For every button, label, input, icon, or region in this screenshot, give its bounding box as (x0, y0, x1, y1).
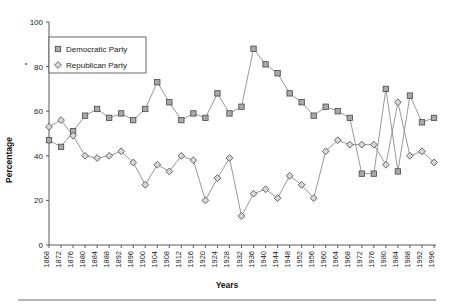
x-tick-label: 1944 (271, 251, 280, 268)
data-point-marker (46, 137, 51, 142)
data-point-marker (299, 100, 304, 105)
x-tick-label: 1988 (403, 251, 412, 268)
x-tick-label: 1916 (186, 251, 195, 268)
x-tick-label: 1892 (114, 251, 123, 268)
data-point-marker (155, 80, 160, 85)
data-point-marker (106, 115, 111, 120)
x-tick-label: 1984 (391, 251, 400, 268)
data-point-marker (395, 99, 402, 106)
data-point-marker (370, 141, 377, 148)
data-point-marker (311, 113, 316, 118)
data-point-marker (275, 71, 280, 76)
data-point-marker (179, 117, 184, 122)
data-point-marker (335, 109, 340, 114)
data-point-marker (347, 115, 352, 120)
data-point-marker (274, 195, 281, 202)
x-tick-label: 1960 (319, 251, 328, 268)
data-point-marker (227, 111, 232, 116)
x-tick-label: 1904 (150, 251, 159, 268)
x-axis-title: Years (216, 280, 239, 290)
data-point-marker (431, 115, 436, 120)
data-point-marker (202, 197, 209, 204)
data-point-marker (371, 171, 376, 176)
data-point-marker (239, 104, 244, 109)
data-point-marker (419, 120, 424, 125)
x-tick-label: 1868 (42, 251, 51, 268)
legend-marker-democratic (55, 46, 60, 51)
data-point-marker (382, 161, 389, 168)
series-polylines (49, 49, 434, 216)
x-tick-label: 1872 (54, 251, 63, 268)
data-point-marker (203, 115, 208, 120)
x-tick-label: 1928 (222, 251, 231, 268)
data-point-marker (407, 152, 414, 159)
data-point-marker (118, 111, 123, 116)
data-point-marker (323, 104, 328, 109)
y-tick-label: 0 (39, 241, 44, 250)
y-tick-label: 20 (34, 196, 43, 205)
chart-legend: Democratic PartyRepublican Party (49, 37, 146, 73)
x-tick-label: 1876 (66, 251, 75, 268)
y-tick-label: 60 (34, 107, 43, 116)
data-point-marker (131, 117, 136, 122)
x-tick-label: 1992 (415, 251, 424, 268)
x-tick-label: 1912 (174, 251, 183, 268)
x-tick-label: 1976 (367, 251, 376, 268)
x-tick-labels: 1868187218761880188418881892189619001904… (42, 251, 436, 268)
data-point-marker (106, 152, 113, 159)
y-tick-labels: 020406080100 (30, 18, 44, 250)
y-tick-label: 40 (34, 152, 43, 161)
data-point-marker (82, 113, 87, 118)
data-point-marker (263, 62, 268, 67)
y-axis-title: Percentage (4, 137, 14, 183)
data-point-marker (407, 93, 412, 98)
data-point-marker (190, 157, 197, 164)
data-point-marker (238, 213, 245, 220)
data-point-marker (214, 175, 221, 182)
stray-dot-artifact (25, 63, 27, 65)
x-tick-label: 1952 (295, 251, 304, 268)
data-point-marker (358, 141, 365, 148)
legend-label-democratic: Democratic Party (66, 45, 127, 54)
y-tick-label: 80 (34, 63, 43, 72)
data-point-marker (346, 141, 353, 148)
data-point-marker (383, 86, 388, 91)
y-tick-label: 100 (30, 18, 44, 27)
x-tick-label: 1900 (138, 251, 147, 268)
legend-label-republican: Republican Party (66, 61, 127, 70)
x-tick-label: 1996 (427, 251, 436, 268)
data-point-marker (167, 100, 172, 105)
data-point-marker (287, 91, 292, 96)
x-tick-label: 1936 (247, 251, 256, 268)
data-point-marker (82, 152, 89, 159)
data-point-marker (94, 106, 99, 111)
x-tick-label: 1940 (259, 251, 268, 268)
x-tick-label: 1980 (379, 251, 388, 268)
chart-figure: Percentage 020406080100 1868187218761880… (0, 0, 454, 306)
x-tick-label: 1964 (331, 251, 340, 268)
data-point-marker (286, 172, 293, 179)
party-percentage-line-chart: Percentage 020406080100 1868187218761880… (0, 0, 454, 306)
x-tick-label: 1884 (90, 251, 99, 268)
x-tick-label: 1972 (355, 251, 364, 268)
data-point-marker (143, 106, 148, 111)
data-point-marker (142, 181, 149, 188)
x-tick-label: 1896 (126, 251, 135, 268)
x-tick-label: 1948 (283, 251, 292, 268)
data-point-marker (226, 155, 233, 162)
x-tick-label: 1932 (235, 251, 244, 268)
data-point-marker (215, 91, 220, 96)
x-tick-label: 1968 (343, 251, 352, 268)
data-point-marker (250, 190, 257, 197)
x-tick-label: 1920 (198, 251, 207, 268)
data-point-marker (251, 46, 256, 51)
data-point-marker (58, 144, 63, 149)
x-tick-label: 1908 (162, 251, 171, 268)
data-point-marker (359, 171, 364, 176)
data-point-marker (154, 161, 161, 168)
x-tick-label: 1924 (210, 251, 219, 268)
x-tick-label: 1880 (78, 251, 87, 268)
data-point-marker (94, 155, 101, 162)
data-point-marker (46, 123, 53, 130)
data-point-marker (395, 169, 400, 174)
